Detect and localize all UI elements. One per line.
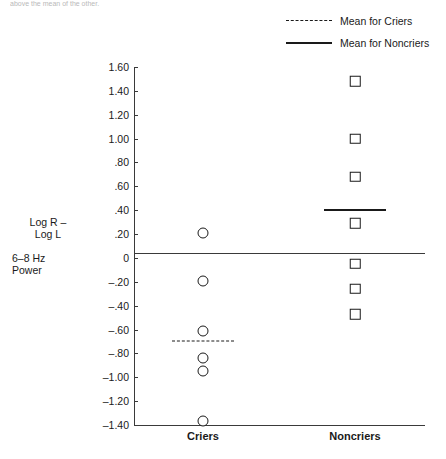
data-point-criers: [198, 353, 209, 364]
y-tick-label: –.40: [85, 301, 129, 311]
mean-line-noncriers: [324, 209, 386, 211]
data-point-criers: [198, 366, 209, 377]
data-point-noncriers: [350, 218, 361, 229]
data-point-noncriers: [350, 259, 361, 270]
y-tick-label: –1.40: [85, 420, 129, 430]
y-tick-label: 1.00: [85, 134, 129, 144]
y-axis-tick-labels: 1.601.401.201.00.80.60.40.200–.20–.40–.6…: [84, 0, 129, 459]
y-tick-label: –.20: [85, 277, 129, 287]
y-tick-mark: [134, 377, 138, 378]
y-tick-mark: [134, 258, 138, 259]
y-tick-label: .20: [85, 229, 129, 239]
y-tick-mark: [134, 210, 138, 211]
y-tick-mark: [134, 67, 138, 68]
y-tick-label: –1.00: [85, 372, 129, 382]
y-tick-mark: [134, 115, 138, 116]
y-tick-label: .40: [85, 205, 129, 215]
y-tick-label: .60: [85, 181, 129, 191]
y-axis-line: [134, 67, 135, 425]
data-point-criers: [198, 227, 209, 238]
y-tick-mark: [134, 353, 138, 354]
y-tick-label: 1.60: [85, 62, 129, 72]
y-tick-mark: [134, 401, 138, 402]
data-point-noncriers: [350, 172, 361, 183]
y-tick-label: –.80: [85, 348, 129, 358]
y-tick-mark: [134, 91, 138, 92]
y-tick-mark: [134, 330, 138, 331]
x-axis-line: [134, 425, 425, 426]
y-tick-label: 0: [85, 253, 129, 263]
data-point-noncriers: [350, 284, 361, 295]
data-point-noncriers: [350, 309, 361, 320]
y-tick-mark: [134, 234, 138, 235]
y-tick-label: .80: [85, 157, 129, 167]
data-point-criers: [198, 416, 209, 427]
x-axis-label-criers: Criers: [187, 430, 219, 442]
mean-line-criers: [172, 341, 234, 342]
y-tick-mark: [134, 306, 138, 307]
data-point-criers: [198, 275, 209, 286]
y-tick-mark: [134, 186, 138, 187]
y-tick-mark: [134, 139, 138, 140]
y-tick-label: 1.40: [85, 86, 129, 96]
y-tick-label: –1.20: [85, 396, 129, 406]
plot-area: 1.601.401.201.00.80.60.40.200–.20–.40–.6…: [0, 0, 446, 459]
data-point-criers: [198, 325, 209, 336]
y-tick-mark: [134, 162, 138, 163]
data-point-noncriers: [350, 133, 361, 144]
y-tick-label: –.60: [85, 325, 129, 335]
data-point-noncriers: [350, 76, 361, 87]
x-axis-label-noncriers: Noncriers: [329, 430, 380, 442]
y-tick-label: 1.20: [85, 110, 129, 120]
y-tick-mark: [134, 282, 138, 283]
y-tick-mark: [134, 425, 138, 426]
zero-reference-line: [134, 253, 425, 254]
